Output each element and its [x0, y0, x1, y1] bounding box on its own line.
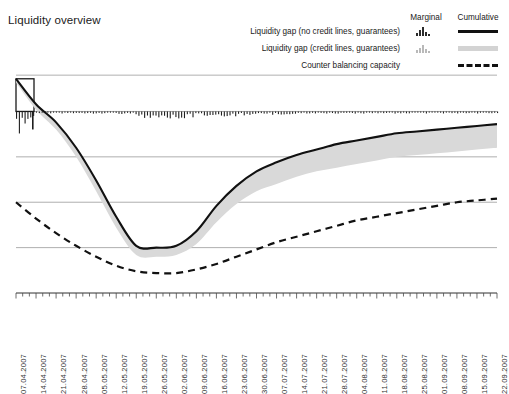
x-axis-tick-label: 30.06.2007 — [260, 354, 269, 394]
x-axis-tick-label: 21.07.2007 — [320, 354, 329, 394]
x-axis-tick-label: 07.07.2007 — [280, 354, 289, 394]
x-axis-tick-label: 02.06.2007 — [180, 354, 189, 394]
x-axis-tick-label: 28.07.2007 — [340, 354, 349, 394]
x-axis-tick-label: 26.05.2007 — [160, 354, 169, 394]
x-axis-tick-label: 28.04.2007 — [80, 354, 89, 394]
x-axis-tick-label: 22.09.2007 — [500, 354, 509, 394]
x-axis-tick-label: 18.08.2007 — [400, 354, 409, 394]
x-axis-tick-label: 11.08.2007 — [380, 354, 389, 393]
x-axis-tick-label: 07.04.2007 — [19, 354, 28, 394]
x-axis-tick-label: 16.06.2007 — [220, 354, 229, 394]
x-axis-tick-label: 14.07.2007 — [300, 354, 309, 394]
liquidity-gap-no-credit-line — [16, 79, 497, 249]
x-axis-tick-label: 25.08.2007 — [420, 354, 429, 394]
x-axis-tick-label: 09.06.2007 — [200, 354, 209, 394]
x-axis-tick-label: 15.09.2007 — [480, 354, 489, 394]
counter-balancing-capacity-line — [16, 199, 497, 274]
x-axis-tick-label: 01.09.2007 — [440, 354, 449, 394]
x-axis-tick-label: 23.06.2007 — [240, 354, 249, 394]
x-axis-tick-label: 14.04.2007 — [39, 354, 48, 394]
x-axis-labels: 07.04.200714.04.200721.04.200728.04.2007… — [0, 298, 499, 361]
x-axis-tick-label: 04.08.2007 — [360, 354, 369, 394]
x-axis-tick-label: 05.05.2007 — [100, 354, 109, 394]
x-axis-tick-label: 21.04.2007 — [59, 354, 68, 394]
x-axis-tick-label: 19.05.2007 — [140, 354, 149, 394]
x-axis-tick-label: 12.05.2007 — [120, 354, 129, 394]
x-axis-tick-label: 08.09.2007 — [460, 354, 469, 394]
